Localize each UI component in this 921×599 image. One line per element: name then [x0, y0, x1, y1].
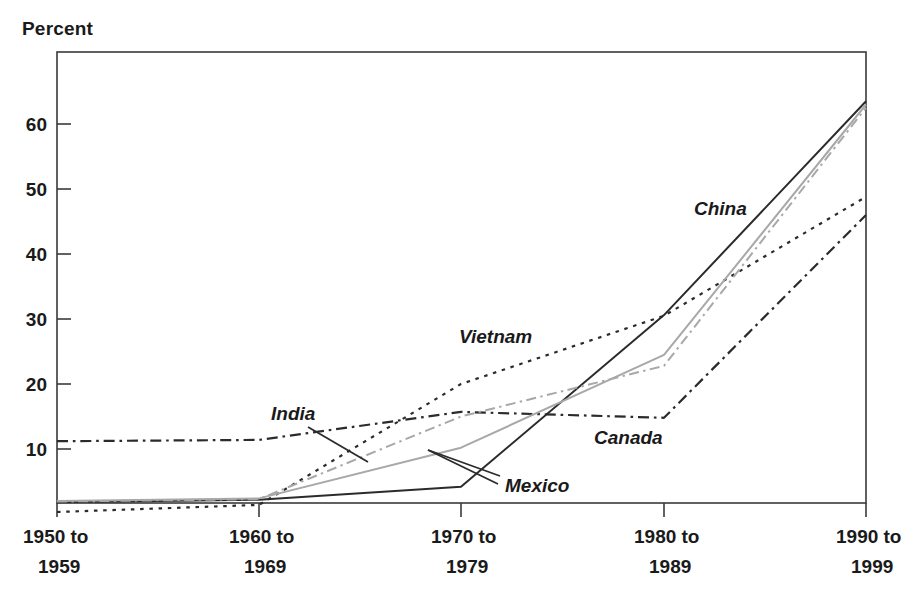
series-annotations: China Vietnam Canada Mexico India [271, 198, 747, 496]
x-tick-label-1990-line1: 1990 to [836, 526, 901, 547]
y-tick-label-60: 60 [26, 114, 47, 135]
x-axis-ticks [57, 503, 866, 517]
x-tick-label-1980-line2: 1989 [649, 556, 691, 577]
series-label-vietnam: Vietnam [459, 326, 532, 347]
y-axis-ticks [57, 124, 71, 449]
x-tick-label-1960-line2: 1969 [244, 556, 286, 577]
x-tick-label-1970-line2: 1979 [446, 556, 488, 577]
series-layer [57, 101, 866, 512]
series-label-mexico: Mexico [505, 475, 569, 496]
x-tick-label-1950-line1: 1950 to [23, 526, 88, 547]
series-line-india [57, 108, 866, 502]
y-axis-tick-labels: 60 50 40 30 20 10 [26, 114, 47, 460]
india-leader-line [308, 427, 368, 462]
series-label-canada: Canada [594, 427, 663, 448]
series-line-vietnam [57, 197, 866, 512]
plot-frame [57, 52, 866, 503]
y-tick-label-40: 40 [26, 244, 47, 265]
x-tick-label-1970-line1: 1970 to [431, 526, 496, 547]
annotation-leader-lines [308, 427, 500, 484]
mexico-leader-line-2 [428, 450, 498, 484]
chart-container: Percent 60 50 40 30 20 10 [0, 0, 921, 599]
y-tick-label-30: 30 [26, 309, 47, 330]
y-tick-label-50: 50 [26, 179, 47, 200]
x-tick-label-1990-line2: 1999 [851, 556, 893, 577]
series-label-china: China [694, 198, 747, 219]
series-label-india: India [271, 403, 316, 424]
plot-border [57, 52, 866, 503]
x-tick-label-1980-line1: 1980 to [634, 526, 699, 547]
y-tick-label-20: 20 [26, 374, 47, 395]
x-tick-label-1950-line2: 1959 [38, 556, 80, 577]
x-axis-tick-labels: 1950 to 1959 1960 to 1969 1970 to 1979 1… [23, 526, 901, 577]
y-tick-label-10: 10 [26, 439, 47, 460]
series-line-china [57, 101, 866, 502]
line-chart-plot: 60 50 40 30 20 10 1950 to 1959 1960 to 1… [0, 0, 921, 599]
series-line-mexico [57, 105, 866, 502]
x-tick-label-1960-line1: 1960 to [229, 526, 294, 547]
